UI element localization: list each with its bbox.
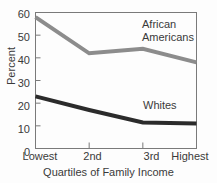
line-chart: Percent 60 50 40 30 20 10 0 Lowest 2nd 3…	[0, 0, 217, 183]
plot-area	[0, 0, 217, 183]
y-axis-ticks	[36, 13, 41, 149]
x-axis-ticks	[89, 143, 143, 149]
series-line-african-americans	[36, 17, 197, 62]
series-line-whites	[36, 96, 197, 123]
